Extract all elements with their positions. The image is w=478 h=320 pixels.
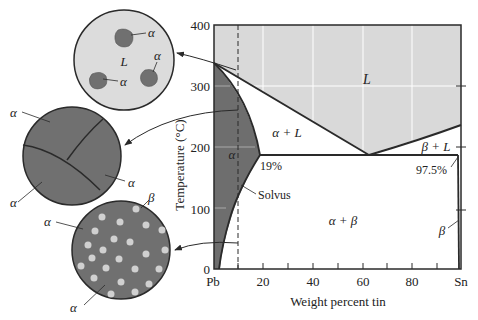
- x-tick-80: 80: [406, 274, 419, 289]
- micro-mid-alpha-3: α: [128, 175, 136, 190]
- x-tick-60: 60: [357, 274, 370, 289]
- micro-mid-alpha-2: α: [10, 195, 18, 210]
- micro-top-alpha-2: α: [120, 74, 128, 89]
- percent-97-leader: [451, 157, 458, 167]
- region-label-alpha-liquid: α + L: [272, 125, 301, 140]
- micro-top-alpha-3: α: [154, 48, 162, 63]
- alpha-particle-1: [115, 29, 133, 47]
- alpha-particle-2: [89, 72, 107, 89]
- x-tick-pb: Pb: [206, 274, 220, 289]
- micro-bot-beta: β: [147, 190, 155, 205]
- alpha-particle-3: [141, 70, 158, 87]
- y-tick-400: 400: [191, 18, 211, 33]
- x-axis-title: Weight percent tin: [290, 294, 386, 309]
- micrograph-liquid: L α α α: [74, 10, 174, 110]
- micrograph-alpha-grains: α α α: [10, 105, 136, 210]
- annotation-19-percent: 19%: [260, 159, 282, 173]
- region-label-liquid: L: [362, 72, 371, 87]
- micro-bot-alpha-1: α: [44, 214, 52, 229]
- micro-top-alpha-1: α: [148, 25, 156, 40]
- y-tick-200: 200: [191, 140, 211, 155]
- y-axis-title: Temperature (°C): [172, 119, 187, 210]
- phase-diagram-figure: 400 300 200 100 0 Pb 20 40 60 80 Sn Weig…: [0, 0, 478, 320]
- micro-top-L: L: [119, 54, 127, 69]
- solvus-leader: [241, 185, 256, 194]
- micrograph-alpha-beta: α β α: [44, 190, 170, 315]
- x-tick-20: 20: [257, 274, 270, 289]
- annotation-solvus: Solvus: [258, 188, 291, 202]
- x-ticks: [238, 263, 437, 269]
- x-tick-sn: Sn: [454, 274, 468, 289]
- annotation-97-5-percent: 97.5%: [416, 163, 447, 177]
- y-tick-100: 100: [191, 202, 211, 217]
- micro-bot-alpha-2: α: [70, 300, 78, 315]
- region-label-beta: β: [438, 223, 446, 238]
- y-tick-300: 300: [191, 79, 211, 94]
- region-label-alpha-beta: α + β: [329, 213, 358, 228]
- beta-leader: [448, 220, 459, 228]
- beta-solvus: [458, 155, 459, 269]
- region-label-beta-liquid: β + L: [421, 139, 451, 154]
- arrow-to-alpha-beta-micrograph: [175, 242, 238, 250]
- x-tick-40: 40: [307, 274, 320, 289]
- region-label-alpha: α: [229, 147, 237, 162]
- micro-mid-alpha-1: α: [10, 105, 18, 120]
